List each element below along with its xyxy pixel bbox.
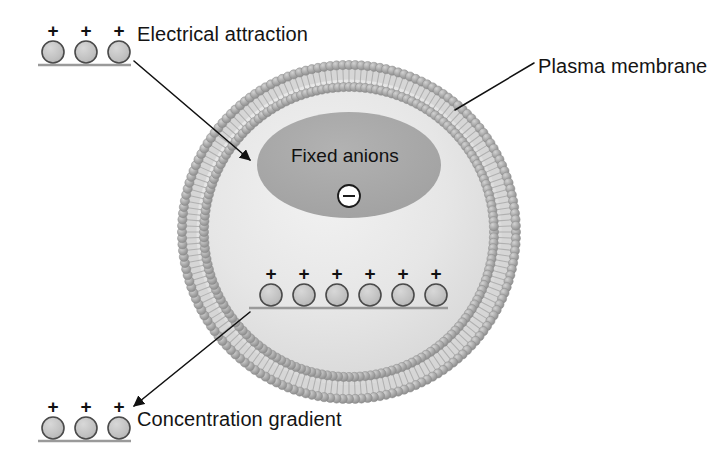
label-electrical-attraction: Electrical attraction [137, 23, 308, 46]
plasma-membrane-leader [455, 63, 534, 110]
svg-text:+: + [80, 20, 91, 41]
svg-text:+: + [265, 263, 276, 284]
label-concentration-gradient: Concentration gradient [137, 408, 342, 431]
fixed-anions-charge-badge [338, 185, 360, 207]
svg-text:+: + [80, 396, 91, 417]
svg-text:+: + [47, 396, 58, 417]
diagram-canvas: ++++++++++++ Electrical attraction Plasm… [0, 0, 722, 457]
svg-text:+: + [364, 263, 375, 284]
label-fixed-anions: Fixed anions [291, 145, 399, 167]
svg-text:+: + [47, 20, 58, 41]
svg-text:+: + [113, 20, 124, 41]
ion-group-outside-top-left: +++ [38, 20, 131, 65]
concentration-gradient-arrow [134, 312, 250, 406]
svg-text:+: + [113, 396, 124, 417]
svg-text:+: + [331, 263, 342, 284]
svg-text:+: + [397, 263, 408, 284]
svg-text:+: + [298, 263, 309, 284]
ion-group-outside-bottom-left: +++ [38, 396, 131, 441]
svg-text:+: + [430, 263, 441, 284]
label-plasma-membrane: Plasma membrane [538, 55, 707, 78]
